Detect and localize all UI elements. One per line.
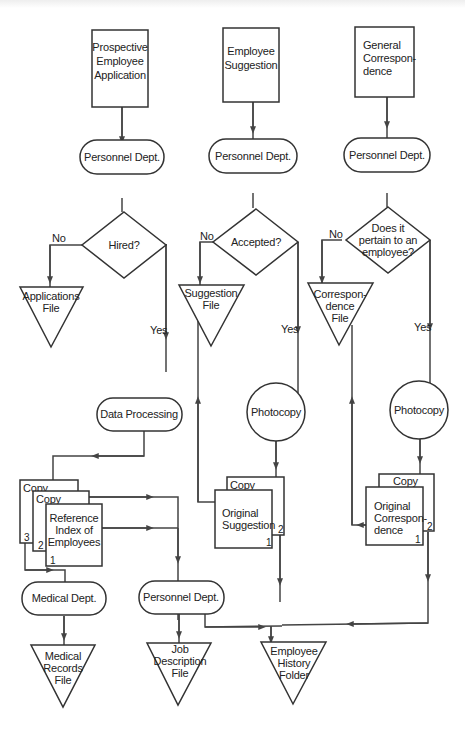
svg-text:2: 2	[38, 540, 44, 551]
svg-text:Copy: Copy	[230, 479, 256, 491]
svg-text:Correspon-: Correspon-	[374, 512, 428, 524]
svg-text:employee?: employee?	[362, 246, 414, 258]
svg-text:Employee: Employee	[270, 645, 317, 657]
svg-text:Job: Job	[171, 643, 188, 655]
document-stack-reference-index: Copy 3 Copy 2 Reference Index of Employe…	[20, 480, 102, 566]
process-photocopy-correspondence: Photocopy	[390, 381, 448, 439]
label: Application	[94, 69, 146, 81]
svg-text:Employees: Employees	[48, 536, 101, 548]
svg-text:Personnel Dept.: Personnel Dept.	[215, 150, 291, 162]
svg-text:Original: Original	[222, 507, 258, 519]
yes-label-2: Yes	[281, 323, 299, 335]
svg-text:Copy: Copy	[393, 475, 419, 487]
source-general-correspondence: General Correspon- dence	[355, 27, 417, 97]
svg-text:File: File	[203, 299, 220, 311]
svg-text:2: 2	[427, 521, 433, 532]
document-stack-correspondence: Copy 2 Original Correspon- dence 1	[366, 474, 434, 545]
decision-pertains-to-employee: Does it pertain to an employee?	[346, 207, 430, 273]
no-label-2: No	[200, 230, 214, 242]
svg-text:Personnel Dept.: Personnel Dept.	[84, 151, 160, 163]
storage-correspondence-file: Correspon- dence File	[308, 283, 373, 345]
svg-text:Photocopy: Photocopy	[394, 404, 445, 416]
svg-text:pertain to an: pertain to an	[359, 234, 418, 246]
svg-text:Employee: Employee	[227, 45, 274, 57]
svg-text:dence: dence	[326, 300, 355, 312]
svg-text:Medical: Medical	[45, 650, 82, 662]
svg-text:3: 3	[24, 532, 30, 543]
svg-text:Does it: Does it	[372, 222, 405, 234]
svg-text:File: File	[55, 674, 72, 686]
svg-text:Reference: Reference	[50, 512, 99, 524]
process-data-processing: Data Processing	[97, 398, 182, 431]
svg-text:File: File	[43, 302, 60, 314]
storage-suggestion-file: Suggestion File	[179, 285, 244, 346]
process-personnel-dept-3: Personnel Dept.	[344, 138, 430, 172]
svg-text:Medical Dept.: Medical Dept.	[32, 592, 97, 604]
yes-label-1: Yes	[150, 324, 168, 336]
svg-text:Personnel Dept.: Personnel Dept.	[349, 149, 425, 161]
svg-text:Records: Records	[43, 662, 83, 674]
process-personnel-dept-bottom: Personnel Dept.	[139, 581, 224, 614]
flowchart: Prospective Employee Application Personn…	[0, 0, 465, 731]
no-label-1: No	[52, 232, 66, 244]
svg-text:Applications: Applications	[23, 290, 81, 302]
svg-text:Copy: Copy	[36, 493, 62, 505]
svg-text:Accepted?: Accepted?	[231, 236, 281, 248]
svg-text:Personnel Dept.: Personnel Dept.	[143, 591, 219, 603]
yes-label-3: Yes	[414, 321, 432, 333]
svg-text:2: 2	[278, 524, 284, 535]
svg-text:History: History	[278, 657, 312, 669]
svg-text:File: File	[172, 667, 189, 679]
svg-text:Data Processing: Data Processing	[100, 408, 178, 420]
svg-text:Index of: Index of	[55, 524, 94, 536]
storage-job-description-file: Job Description File	[147, 643, 211, 705]
svg-text:Correspon-: Correspon-	[313, 288, 367, 300]
process-medical-dept: Medical Dept.	[22, 582, 106, 615]
storage-employee-history-folder: Employee History Folder	[261, 642, 326, 704]
process-personnel-dept-2: Personnel Dept.	[209, 139, 297, 173]
label: Employee	[96, 55, 143, 67]
no-label-3: No	[329, 228, 343, 240]
svg-text:1: 1	[415, 534, 421, 545]
source-prospective-employee-application: Prospective Employee Application	[92, 30, 148, 107]
storage-applications-file: Applications File	[20, 287, 83, 347]
svg-text:dence: dence	[363, 65, 392, 77]
svg-text:dence: dence	[374, 524, 403, 536]
storage-medical-records-file: Medical Records File	[31, 645, 95, 707]
decision-hired: Hired?	[82, 212, 166, 278]
label: Prospective	[92, 41, 147, 53]
svg-text:1: 1	[266, 537, 272, 548]
svg-text:Suggestion: Suggestion	[224, 59, 277, 71]
svg-text:Photocopy: Photocopy	[251, 406, 302, 418]
svg-text:1: 1	[50, 555, 56, 566]
svg-text:Folder: Folder	[279, 669, 310, 681]
process-photocopy-suggestion: Photocopy	[247, 383, 305, 441]
svg-text:Hired?: Hired?	[108, 239, 139, 251]
decision-accepted: Accepted?	[213, 209, 298, 275]
svg-text:Suggestion: Suggestion	[184, 287, 237, 299]
svg-text:Correspon-: Correspon-	[363, 52, 417, 64]
svg-text:General: General	[363, 39, 401, 51]
svg-text:File: File	[332, 312, 349, 324]
svg-text:Original: Original	[374, 500, 410, 512]
source-employee-suggestion: Employee Suggestion	[223, 28, 279, 102]
process-personnel-dept-1: Personnel Dept.	[80, 140, 164, 174]
svg-text:Description: Description	[154, 655, 207, 667]
svg-text:Suggestion: Suggestion	[222, 519, 275, 531]
document-stack-suggestion: Copy 2 Original Suggestion 1	[215, 477, 284, 548]
